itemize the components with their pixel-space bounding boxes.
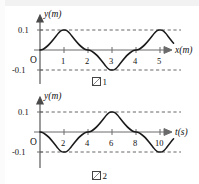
x-tick-label-2-2: 4 [85, 138, 90, 148]
x-axis-label-2: t(s) [175, 127, 188, 138]
figure-2-caption-number: 2 [103, 171, 108, 181]
y-axis-label-2: y(m) [43, 92, 61, 102]
x-axis-arrow-1 [164, 47, 172, 54]
x-axis-label-1: x(m) [174, 45, 192, 56]
cjk-tu-glyph-icon-1 [92, 77, 101, 86]
x-tick-label-2-3: 6 [109, 138, 113, 148]
figure-page: y(m) x(m) O 0.1 -0.1 1 2 3 4 5 1 [0, 0, 199, 184]
x-tick-label-2-1: 2 [61, 138, 65, 148]
y-tick-label-1-pos: 0.1 [18, 25, 29, 35]
origin-label-1: O [30, 55, 37, 65]
figure-1-caption: 1 [0, 76, 199, 87]
x-tick-label-1-3: 3 [109, 56, 113, 66]
x-tick-label-1-2: 2 [85, 56, 89, 66]
x-tick-label-2-5: 10 [155, 138, 164, 148]
y-tick-label-1-neg: -0.1 [12, 65, 25, 75]
origin-label-2: O [30, 137, 37, 147]
x-axis-arrow-2 [164, 129, 172, 136]
y-axis-arrow-1 [37, 15, 43, 22]
figure-1-caption-number: 1 [103, 77, 108, 87]
y-tick-label-2-neg: -0.1 [12, 147, 25, 157]
x-tick-label-2-4: 8 [133, 138, 137, 148]
x-tick-label-1-5: 5 [157, 56, 161, 66]
y-axis-arrow-2 [37, 97, 43, 104]
x-tick-label-1-4: 4 [133, 56, 138, 66]
x-tick-label-1-1: 1 [61, 56, 65, 66]
y-tick-label-2-pos: 0.1 [18, 107, 29, 117]
figure-2-caption: 2 [0, 170, 199, 181]
y-axis-label-1: y(m) [43, 9, 61, 20]
cjk-tu-glyph-icon-2 [92, 171, 101, 180]
